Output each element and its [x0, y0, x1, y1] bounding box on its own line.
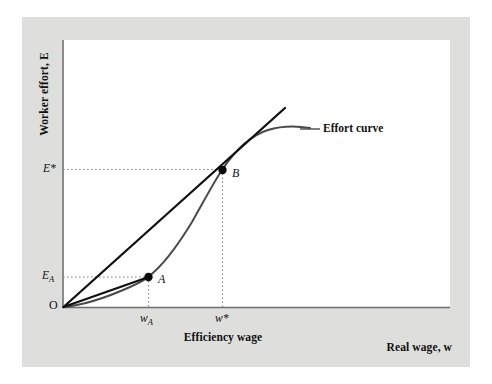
point-b-marker [218, 166, 226, 174]
x-axis-title-inner: Efficiency wage [160, 331, 286, 343]
x-axis-title-outer: Real wage, w [330, 341, 452, 353]
point-a-marker [144, 273, 152, 281]
effort-curve [64, 126, 311, 307]
efficiency-wage-figure: Worker effort, E Efficiency wage Real wa… [0, 0, 492, 384]
point-b-label: B [232, 166, 239, 181]
ray-to-a [64, 277, 151, 308]
y-axis-title: Worker effort, E [38, 34, 50, 154]
effort-curve-label: Effort curve [323, 122, 383, 134]
x-tick-wa: wA [140, 312, 153, 327]
point-a-label: A [158, 272, 165, 287]
x-tick-wstar: w* [215, 312, 228, 324]
y-tick-ea: EA [42, 269, 54, 284]
origin-label: O [49, 298, 58, 313]
plot-svg [0, 0, 492, 384]
y-tick-estar: E* [43, 162, 56, 174]
tangent-ray-through-b [64, 108, 286, 307]
